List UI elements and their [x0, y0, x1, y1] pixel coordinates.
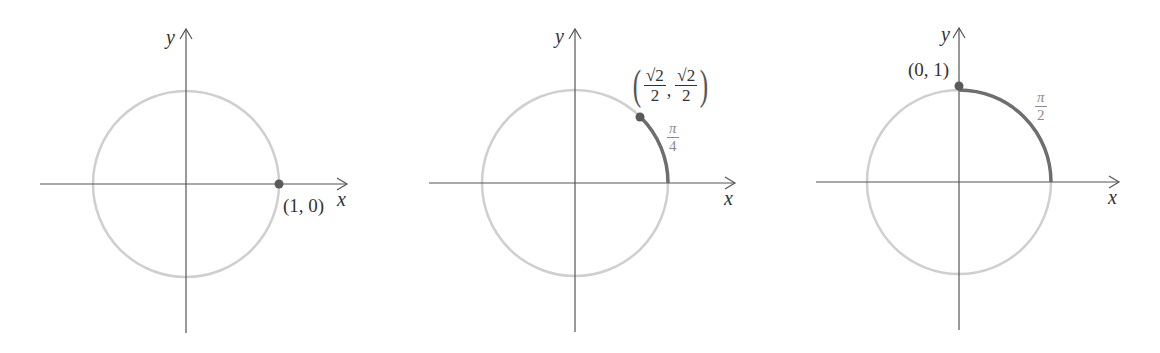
- angle-label: π 2: [1035, 90, 1047, 123]
- x-coordinate-fraction: √2 2: [644, 67, 666, 104]
- y-axis-label: y: [166, 27, 175, 47]
- y-coordinate-fraction: √2 2: [675, 67, 697, 104]
- x-axis-label: x: [1108, 187, 1117, 207]
- point-label: (1, 0): [283, 196, 324, 215]
- x-denominator: 2: [651, 86, 660, 104]
- x-numerator: √2: [644, 67, 666, 86]
- angle-numerator: π: [1035, 90, 1047, 107]
- arc-pi-4: [641, 117, 668, 183]
- point-label: ( √2 2 , √2 2 ): [630, 64, 711, 106]
- unit-circle-graph: [780, 0, 1160, 353]
- y-axis-label: y: [555, 26, 564, 46]
- y-denominator: 2: [682, 86, 691, 104]
- unit-circle-graph: [0, 0, 390, 353]
- x-axis-label: x: [337, 189, 346, 209]
- angle-denominator: 2: [1037, 107, 1045, 123]
- unit-circle-panel-angle-0: y x (1, 0): [0, 0, 390, 353]
- close-paren: ): [700, 64, 708, 106]
- unit-circle-panel-angle-pi-4: y x ( √2 2 , √2 2 ) π 4: [390, 0, 780, 353]
- unit-circle-panel-angle-pi-2: y x (0, 1) π 2: [780, 0, 1160, 353]
- unit-circle-graph: [390, 0, 780, 353]
- terminal-point: [955, 82, 964, 91]
- angle-denominator: 4: [669, 138, 677, 154]
- y-numerator: √2: [675, 67, 697, 86]
- terminal-point: [636, 113, 645, 122]
- angle-label: π 4: [667, 121, 679, 154]
- terminal-point: [275, 180, 284, 189]
- separator: ,: [667, 81, 672, 99]
- point-label: (0, 1): [908, 60, 949, 79]
- y-axis-label: y: [941, 24, 950, 44]
- x-axis-label: x: [724, 188, 733, 208]
- angle-numerator: π: [667, 121, 679, 138]
- open-paren: (: [633, 64, 641, 106]
